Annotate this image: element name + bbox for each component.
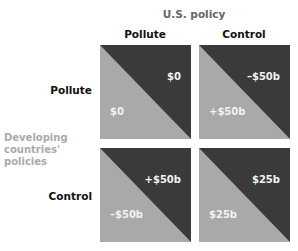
payoff-cell-control-control: $25b $25b <box>199 148 290 242</box>
column-header-pollute: Pollute <box>100 28 190 40</box>
diagonal-split-shape <box>199 148 290 242</box>
us-payoff: +$50b <box>145 174 181 185</box>
diagonal-split-shape <box>199 45 290 139</box>
diagonal-split-shape <box>100 148 191 242</box>
row-header-control: Control <box>0 190 92 202</box>
us-payoff: –$50b <box>247 71 280 82</box>
us-payoff: $25b <box>252 174 280 185</box>
us-policy-title: U.S. policy <box>134 8 254 20</box>
row-header-pollute: Pollute <box>0 84 92 96</box>
column-header-control: Control <box>199 28 289 40</box>
payoff-cell-pollute-control: –$50b +$50b <box>199 45 290 139</box>
us-payoff: $0 <box>167 71 181 82</box>
axis-label-line: policies <box>4 156 68 168</box>
developing-payoff: +$50b <box>209 106 245 117</box>
developing-payoff: –$50b <box>110 209 143 220</box>
payoff-cell-pollute-pollute: $0 $0 <box>100 45 191 139</box>
payoff-cell-control-pollute: +$50b –$50b <box>100 148 191 242</box>
developing-payoff: $25b <box>209 209 237 220</box>
developing-payoff: $0 <box>110 106 124 117</box>
developing-countries-label: Developing countries' policies <box>4 132 68 168</box>
diagonal-split-shape <box>100 45 191 139</box>
axis-label-line: countries' <box>4 144 68 156</box>
axis-label-line: Developing <box>4 132 68 144</box>
